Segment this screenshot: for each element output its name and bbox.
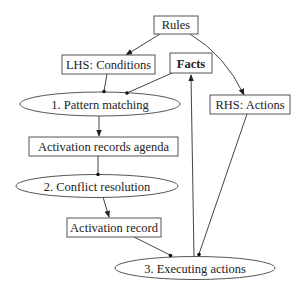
node-activation-records-agenda: Activation records agenda	[29, 137, 178, 156]
edge-conflict-record	[103, 197, 109, 217]
node-rhs-actions: RHS: Actions	[210, 95, 290, 114]
node-executing-actions: 3. Executing actions	[115, 257, 275, 280]
dot-rhs-executing	[197, 253, 201, 257]
node-rules-label: Rules	[162, 18, 191, 32]
dot-facts-pattern	[125, 91, 129, 95]
dot-record-executing	[169, 254, 173, 258]
dot-agenda-conflict	[96, 173, 100, 177]
node-conflict-resolution: 2. Conflict resolution	[16, 175, 178, 198]
rule-engine-diagram: Rules LHS: Conditions Facts RHS: Actions…	[0, 0, 300, 288]
edge-record-executing	[134, 237, 170, 255]
node-executing-label: 3. Executing actions	[144, 262, 246, 276]
edge-rules-lhs	[126, 34, 160, 55]
edge-executing-facts	[191, 75, 194, 257]
node-facts-label: Facts	[177, 57, 206, 71]
node-record-label: Activation record	[70, 221, 159, 235]
edge-rhs-executing	[199, 114, 247, 254]
edge-lhs-pattern	[104, 74, 107, 91]
node-pattern-matching: 1. Pattern matching	[20, 92, 180, 116]
node-conflict-label: 2. Conflict resolution	[44, 180, 151, 194]
node-rules: Rules	[154, 16, 198, 34]
node-pattern-label: 1. Pattern matching	[51, 98, 149, 112]
dot-lhs-pattern	[102, 90, 106, 94]
node-lhs-conditions: LHS: Conditions	[62, 55, 155, 74]
node-rhs-label: RHS: Actions	[215, 98, 284, 112]
node-lhs-label: LHS: Conditions	[66, 58, 151, 72]
node-activation-record: Activation record	[67, 218, 161, 237]
node-facts: Facts	[170, 53, 212, 73]
edge-facts-pattern	[127, 73, 172, 93]
node-agenda-label: Activation records agenda	[38, 140, 170, 154]
